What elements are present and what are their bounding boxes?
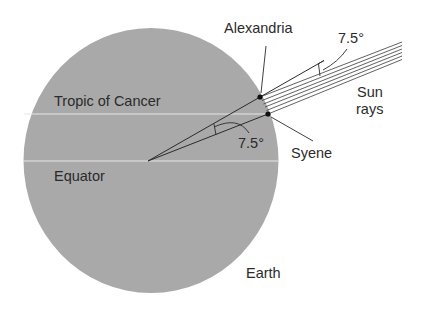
tropic-of-cancer-label: Tropic of Cancer xyxy=(54,93,161,109)
top-angle-label: 7.5° xyxy=(338,30,364,46)
center-angle-label: 7.5° xyxy=(238,135,264,151)
syene-dot xyxy=(265,111,270,116)
equator-label: Equator xyxy=(54,168,105,184)
top-angle-marker xyxy=(318,49,347,76)
rays-label: rays xyxy=(356,101,383,117)
syene-leader xyxy=(271,117,313,141)
earth-label: Earth xyxy=(246,265,281,281)
alexandria-leader xyxy=(261,46,266,93)
alexandria-label: Alexandria xyxy=(224,20,293,36)
diagram-canvas: Alexandria 7.5° Sun rays Tropic of Cance… xyxy=(0,0,424,312)
eratosthenes-diagram: Alexandria 7.5° Sun rays Tropic of Cance… xyxy=(0,0,424,312)
alexandria-dot xyxy=(257,94,262,99)
syene-label: Syene xyxy=(291,145,332,161)
sun-label: Sun xyxy=(357,84,383,100)
